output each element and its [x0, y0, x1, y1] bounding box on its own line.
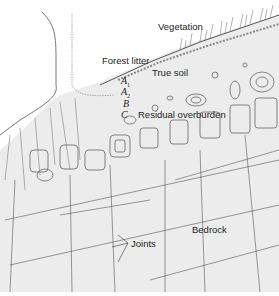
- horizon-c: C: [121, 110, 128, 120]
- label-true-soil: True soil: [152, 68, 188, 78]
- horizon-b: B: [123, 99, 129, 109]
- label-vegetation: Vegetation: [158, 22, 203, 32]
- label-bedrock: Bedrock: [192, 225, 227, 235]
- label-forest-litter: Forest litter: [102, 56, 150, 66]
- label-residual-overburden: Residual overburden: [138, 110, 226, 120]
- label-joints: Joints: [131, 239, 156, 249]
- soil-profile-diagram: Vegetation Forest litter True soil Resid…: [0, 0, 279, 296]
- diagram-drawing: [0, 0, 279, 296]
